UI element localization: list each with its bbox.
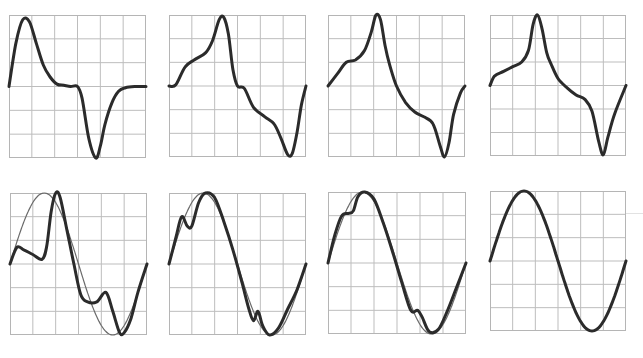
waveform-panel-top-1 [9, 15, 146, 158]
waveform-plot [169, 193, 306, 335]
waveform-panel-top-2 [169, 15, 306, 157]
waveform-plot [169, 15, 306, 157]
waveform-panel-top-3 [328, 15, 465, 157]
waveform-plot [328, 15, 465, 157]
waveform-panel-bottom-1 [10, 193, 147, 335]
waveform-panel-top-4 [490, 15, 626, 156]
waveform-panel-bottom-4 [490, 191, 626, 331]
waveform-plot [10, 193, 147, 335]
waveform-panel-bottom-2 [169, 193, 306, 335]
waveform-plot [490, 191, 626, 331]
grid-lines [490, 15, 626, 156]
waveform-plot [9, 15, 146, 158]
waveform-panel-bottom-3 [328, 192, 466, 334]
stray-line [626, 213, 643, 214]
waveform-plot [490, 15, 626, 156]
waveform-plot [328, 192, 466, 334]
